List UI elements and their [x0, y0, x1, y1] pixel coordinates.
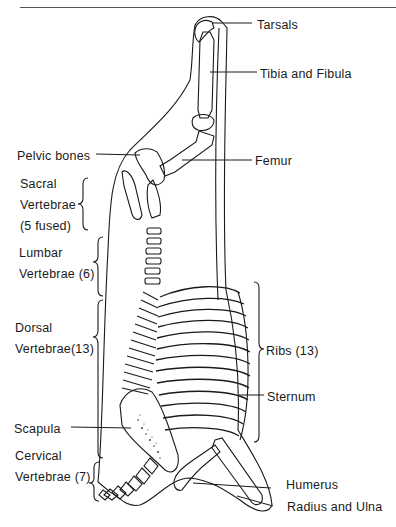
dorsal-vertebrae — [122, 292, 158, 394]
label-femur: Femur — [255, 151, 292, 171]
dorsal-brace — [93, 300, 103, 458]
cervical-vertebrae — [99, 458, 158, 500]
label-radius-ulna: Radius and Ulna — [287, 497, 382, 517]
ribs-brace — [254, 282, 264, 442]
radius-ulna-bone — [212, 438, 262, 505]
label-scapula: Scapula — [14, 419, 61, 439]
label-lumbar-1: Lumbar — [19, 243, 63, 263]
lumbar-vertebrae — [145, 228, 161, 284]
label-sacral-3: (5 fused) — [20, 216, 71, 236]
label-dorsal-1: Dorsal — [15, 318, 52, 338]
label-cervical-2: Vertebrae (7) — [15, 467, 91, 487]
label-cervical-1: Cervical — [15, 446, 62, 466]
label-sacral-2: Vertebrae — [20, 195, 76, 215]
tibia-bone — [198, 32, 214, 118]
ribs — [156, 287, 250, 436]
label-dorsal-2: Vertebrae(13) — [15, 339, 94, 359]
label-pelvic-bones: Pelvic bones — [17, 146, 90, 166]
label-sternum: Sternum — [267, 387, 316, 407]
label-tarsals: Tarsals — [257, 15, 298, 35]
sternum-bone — [238, 292, 248, 440]
label-ribs: Ribs (13) — [266, 341, 319, 361]
label-lumbar-2: Vertebrae (6) — [19, 264, 95, 284]
femur-bone — [160, 131, 214, 176]
label-sacral-1: Sacral — [20, 174, 57, 194]
sacral-bone — [147, 180, 160, 218]
label-humerus: Humerus — [286, 475, 338, 495]
label-tibia-fibula: Tibia and Fibula — [260, 64, 352, 84]
carcass-outline — [98, 17, 272, 511]
tarsals-bone — [195, 20, 214, 42]
sacral-brace — [78, 178, 88, 230]
